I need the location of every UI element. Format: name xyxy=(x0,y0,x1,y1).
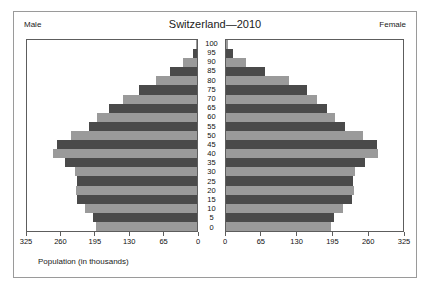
female-bar-age-90 xyxy=(226,58,246,67)
bar-row xyxy=(226,104,403,113)
bar-row xyxy=(226,40,403,49)
bar-row xyxy=(27,176,197,185)
female-bar-age-30 xyxy=(226,167,355,176)
female-bar-age-50 xyxy=(226,131,363,140)
age-tick-label: 5 xyxy=(198,214,225,223)
x-tick-label: 260 xyxy=(54,237,67,246)
female-bar-age-100 xyxy=(226,40,228,49)
bar-row xyxy=(27,104,197,113)
bar-row xyxy=(27,40,197,49)
x-tick xyxy=(163,232,164,236)
bar-row xyxy=(27,95,197,104)
bar-row xyxy=(27,131,197,140)
x-tick xyxy=(129,232,130,236)
female-bar-age-60 xyxy=(226,113,335,122)
female-bar-age-70 xyxy=(226,95,317,104)
bar-row xyxy=(27,58,197,67)
chart-frame: Male Female Switzerland—2010 10095908580… xyxy=(13,11,417,278)
x-tick-label: 65 xyxy=(257,237,265,246)
age-tick-label: 90 xyxy=(198,57,225,66)
male-bar-age-100 xyxy=(196,40,197,49)
age-tick-label: 25 xyxy=(198,177,225,186)
male-bar-age-5 xyxy=(93,213,197,222)
bar-row xyxy=(27,222,197,231)
bar-row xyxy=(27,76,197,85)
x-axis-caption: Population (in thousands) xyxy=(38,257,129,266)
age-tick-label: 40 xyxy=(198,149,225,158)
bar-row xyxy=(226,49,403,58)
female-bar-age-40 xyxy=(226,149,378,158)
male-bar-age-80 xyxy=(156,76,197,85)
male-bar-age-10 xyxy=(85,204,197,213)
bar-row xyxy=(27,158,197,167)
bar-row xyxy=(226,122,403,131)
female-bar-age-35 xyxy=(226,158,365,167)
male-bar-age-60 xyxy=(97,113,197,122)
male-bar-age-20 xyxy=(76,186,197,195)
bar-row xyxy=(226,76,403,85)
female-bar-age-95 xyxy=(226,49,233,58)
female-bar-age-20 xyxy=(226,186,354,195)
age-tick-label: 85 xyxy=(198,67,225,76)
x-tick-label: 65 xyxy=(159,237,167,246)
x-tick xyxy=(332,232,333,236)
male-bar-age-25 xyxy=(77,176,197,185)
x-tick xyxy=(225,232,226,236)
bar-row xyxy=(27,113,197,122)
age-tick-label: 70 xyxy=(198,94,225,103)
bar-row xyxy=(226,113,403,122)
x-tick-label: 325 xyxy=(20,237,33,246)
bar-row xyxy=(27,67,197,76)
x-tick-label: 130 xyxy=(290,237,303,246)
female-x-axis: 065130195260325 xyxy=(225,232,404,254)
bar-row xyxy=(226,186,403,195)
bar-row xyxy=(226,95,403,104)
bar-row xyxy=(226,158,403,167)
male-bar-age-85 xyxy=(170,67,197,76)
female-plot-area xyxy=(225,39,404,232)
bar-row xyxy=(226,213,403,222)
female-bar-age-65 xyxy=(226,104,327,113)
bar-row xyxy=(27,195,197,204)
bar-row xyxy=(226,140,403,149)
bar-row xyxy=(27,186,197,195)
x-tick xyxy=(260,232,261,236)
x-tick xyxy=(404,232,405,236)
age-tick-label: 20 xyxy=(198,186,225,195)
bar-row xyxy=(226,195,403,204)
age-tick-label: 95 xyxy=(198,48,225,57)
bar-row xyxy=(226,58,403,67)
age-axis: 1009590858075706560555045403530252015105… xyxy=(198,39,225,232)
bar-row xyxy=(27,85,197,94)
age-tick-label: 10 xyxy=(198,204,225,213)
age-tick-label: 65 xyxy=(198,103,225,112)
age-tick-label: 50 xyxy=(198,131,225,140)
bar-row xyxy=(226,85,403,94)
female-bar-age-5 xyxy=(226,213,334,222)
x-tick-label: 195 xyxy=(326,237,339,246)
x-tick-label: 130 xyxy=(123,237,136,246)
female-bar-group xyxy=(226,40,403,231)
bar-row xyxy=(226,204,403,213)
female-bar-age-75 xyxy=(226,85,307,94)
x-tick-label: 0 xyxy=(223,237,227,246)
bar-row xyxy=(226,149,403,158)
x-tick-label: 325 xyxy=(398,237,411,246)
male-plot-area xyxy=(26,39,198,232)
chart-title: Switzerland—2010 xyxy=(14,18,416,30)
age-tick-label: 35 xyxy=(198,158,225,167)
bar-row xyxy=(27,122,197,131)
bar-row xyxy=(226,131,403,140)
x-tick-label: 195 xyxy=(89,237,102,246)
bar-row xyxy=(27,213,197,222)
age-tick-label: 100 xyxy=(198,39,225,48)
age-tick-label: 80 xyxy=(198,76,225,85)
male-bar-age-70 xyxy=(123,95,197,104)
bar-row xyxy=(27,149,197,158)
bar-row xyxy=(27,49,197,58)
male-bar-age-40 xyxy=(53,149,197,158)
male-bar-group xyxy=(27,40,197,231)
x-tick xyxy=(60,232,61,236)
bar-row xyxy=(226,67,403,76)
bar-row xyxy=(226,222,403,231)
